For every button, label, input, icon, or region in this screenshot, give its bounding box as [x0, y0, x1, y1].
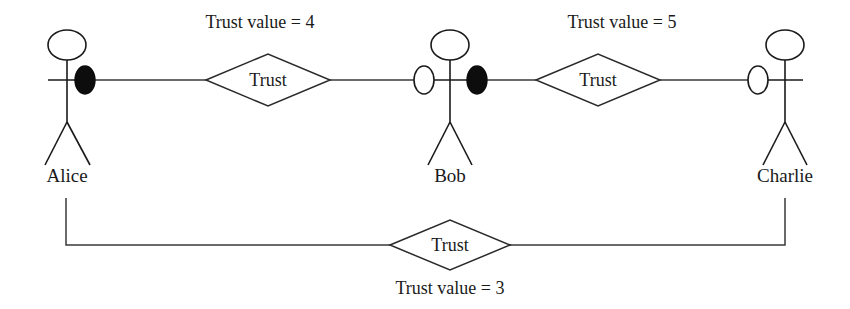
relationship-alice-charlie[interactable]: Trust Trust value = 3 — [66, 198, 785, 298]
diagram-canvas: Alice Bob Charlie Trust Trust value = — [0, 0, 850, 309]
charlie-trusted-endpoint-hollow-icon — [748, 66, 768, 94]
alice-charlie-right-path — [510, 198, 785, 245]
bob-charlie-value-label: Trust value = 5 — [568, 12, 677, 32]
bob-head-icon — [431, 30, 469, 60]
trust-diagram: Alice Bob Charlie Trust Trust value = — [0, 0, 850, 309]
alice-bob-value-label: Trust value = 4 — [206, 12, 315, 32]
bob-charlie-diamond-label: Trust — [579, 70, 616, 90]
bob-trusted-endpoint-hollow-icon — [414, 66, 434, 94]
actor-label-bob: Bob — [434, 165, 466, 186]
charlie-head-icon — [766, 30, 804, 60]
alice-right-leg-line — [67, 122, 90, 165]
alice-charlie-left-path — [66, 198, 390, 245]
alice-bob-diamond-label: Trust — [249, 70, 286, 90]
bob-right-leg-line — [450, 122, 472, 165]
actor-label-charlie: Charlie — [757, 165, 813, 186]
bob-left-leg-line — [428, 122, 450, 165]
actor-bob[interactable]: Bob — [428, 30, 472, 186]
relationship-alice-bob[interactable]: Trust Trust value = 4 — [95, 12, 424, 106]
bob-trusting-endpoint-filled-icon — [467, 66, 487, 94]
actor-alice[interactable]: Alice — [45, 30, 90, 186]
alice-trusting-endpoint-filled-icon — [75, 66, 95, 94]
actor-charlie[interactable]: Charlie — [757, 30, 813, 186]
charlie-left-leg-line — [763, 122, 785, 165]
charlie-right-leg-line — [785, 122, 807, 165]
actor-label-alice: Alice — [46, 165, 87, 186]
alice-left-leg-line — [45, 122, 67, 165]
alice-head-icon — [48, 30, 86, 60]
relationship-bob-charlie[interactable]: Trust Trust value = 5 — [485, 12, 758, 106]
alice-charlie-value-label: Trust value = 3 — [396, 278, 505, 298]
alice-charlie-diamond-label: Trust — [431, 235, 468, 255]
